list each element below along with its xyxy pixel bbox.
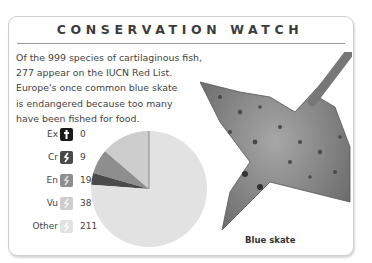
intro-line: have been fished for food. xyxy=(16,111,206,126)
legend-label: Ex xyxy=(47,129,58,139)
fish-icon xyxy=(60,220,73,233)
legend-label: Other xyxy=(32,221,58,231)
dagger-icon xyxy=(60,128,73,141)
legend-item-ex: Ex 0 xyxy=(8,127,88,143)
intro-text: Of the 999 species of cartilaginous fish… xyxy=(16,50,206,126)
blue-skate-illustration xyxy=(200,52,352,232)
title-divider xyxy=(17,43,345,44)
legend-value: 0 xyxy=(80,129,86,139)
legend-item-other: Other 211 xyxy=(8,219,88,235)
legend-item-cr: Cr 9 xyxy=(8,150,88,166)
pie-chart xyxy=(90,130,208,248)
fish-icon xyxy=(60,197,73,210)
legend-label: Vu xyxy=(47,198,58,208)
fish-icon xyxy=(60,174,73,187)
intro-line: is endangered because too many xyxy=(16,96,206,111)
legend-label: En xyxy=(47,175,58,185)
fish-icon xyxy=(60,151,73,164)
intro-line: Europe's once common blue skate xyxy=(16,80,206,95)
legend-value: 9 xyxy=(80,152,86,162)
intro-line: 277 appear on the IUCN Red List. xyxy=(16,65,206,80)
legend-label: Cr xyxy=(48,152,58,162)
legend-item-en: En 19 xyxy=(8,173,88,189)
legend-item-vu: Vu 38 xyxy=(8,196,88,212)
intro-line: Of the 999 species of cartilaginous fish… xyxy=(16,50,206,65)
image-caption: Blue skate xyxy=(245,235,295,245)
panel-title: CONSERVATION WATCH xyxy=(0,22,360,37)
